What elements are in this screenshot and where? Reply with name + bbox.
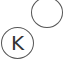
empty-circle-node bbox=[31, 0, 63, 28]
k-node-label: K bbox=[11, 33, 24, 53]
k-circle-node: K bbox=[1, 27, 34, 59]
